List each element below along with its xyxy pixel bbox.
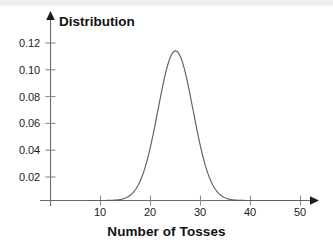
distribution-curve xyxy=(91,51,306,201)
x-tick-label-4: 50 xyxy=(294,206,306,218)
y-axis-arrow-icon xyxy=(46,11,55,20)
x-axis-title: Number of Tosses xyxy=(107,224,225,239)
chart-screenshot: 0.02 0.04 0.06 0.08 0.10 0.12 10 20 30 4… xyxy=(0,0,333,249)
x-axis-arrow-icon xyxy=(310,196,319,205)
x-tick-label-3: 40 xyxy=(244,206,256,218)
x-tick-label-1: 20 xyxy=(144,206,156,218)
x-tick-label-2: 30 xyxy=(194,206,206,218)
y-tick-label-4: 0.10 xyxy=(2,64,40,76)
y-tick-label-3: 0.08 xyxy=(2,91,40,103)
y-tick-label-1: 0.04 xyxy=(2,144,40,156)
y-tick-label-2: 0.06 xyxy=(2,117,40,129)
distribution-chart-plot xyxy=(0,0,333,249)
y-tick-label-0: 0.02 xyxy=(2,171,40,183)
y-tick-label-5: 0.12 xyxy=(2,37,40,49)
y-axis-title: Distribution xyxy=(59,14,135,29)
x-tick-label-0: 10 xyxy=(94,206,106,218)
